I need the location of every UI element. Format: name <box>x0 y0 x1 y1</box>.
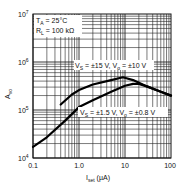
y-tick-1e4: 104 <box>18 153 29 162</box>
x-tick-10: 10 <box>121 162 129 169</box>
y-axis-title: Avo <box>4 89 13 99</box>
x-tick-100: 100 <box>164 162 176 169</box>
y-tick-1e7: 107 <box>18 9 29 18</box>
x-tick-1: 1.0 <box>74 162 84 169</box>
x-axis-title: Iset (µA) <box>86 174 110 183</box>
y-tick-1e6: 106 <box>18 57 29 66</box>
y-tick-1e5: 105 <box>18 105 29 114</box>
gain-vs-iset-chart: TA = 25°C RL = 100 kΩ VS = ±15 V, Vo = ±… <box>0 0 180 186</box>
x-tick-0.1: 0.1 <box>28 162 38 169</box>
